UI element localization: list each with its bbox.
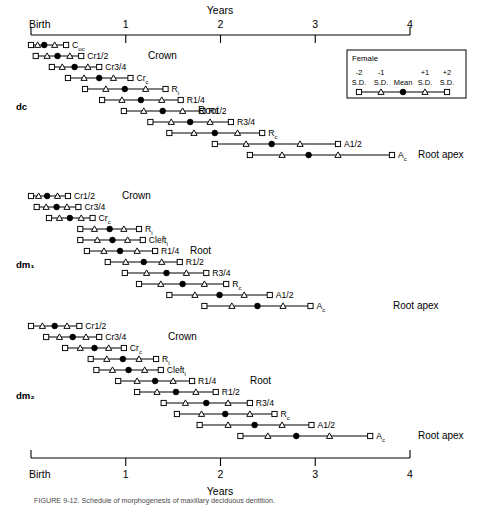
data-row: Crc [63, 343, 143, 354]
data-row: R1/4 [99, 95, 205, 105]
marker-plus2sd [308, 303, 313, 308]
marker-plus2sd [163, 86, 168, 91]
marker-mean [141, 259, 147, 265]
row-label: Ri [145, 224, 153, 235]
marker-plus2sd [140, 237, 145, 242]
data-row: Ri [82, 84, 179, 95]
data-row: R3/4 [122, 268, 230, 278]
marker-minus2sd [34, 204, 39, 209]
marker-mean [72, 64, 78, 70]
marker-minus2sd [202, 303, 207, 308]
marker-minus2sd [161, 400, 166, 405]
data-row: Crc [65, 73, 148, 84]
data-row: Ac [238, 431, 385, 442]
row-label: R1/2 [186, 257, 204, 267]
row-label: R1/4 [187, 95, 205, 105]
marker-plus2sd [189, 378, 194, 383]
row-label: R3/4 [212, 268, 230, 278]
marker-plus2sd [260, 130, 265, 135]
marker-minus2sd [136, 281, 141, 286]
axis-label-birth: Birth [29, 18, 51, 30]
stage-label-crown: Crown [122, 190, 151, 201]
group-label-dm2: dm₂ [16, 390, 35, 401]
row-label: R1/2 [222, 387, 240, 397]
marker-plus2sd [267, 292, 272, 297]
marker-mean [67, 215, 73, 221]
axis-tick-label-1: 1 [123, 18, 129, 30]
marker-plus2sd [153, 248, 158, 253]
data-row: A1/2 [197, 420, 335, 430]
legend-sd-top-0: -2 [356, 68, 363, 77]
data-row: Cr3/4 [44, 332, 127, 342]
data-row: Rc [174, 409, 290, 420]
stage-label-crown: Crown [148, 50, 177, 61]
group-label-dm1: dm₁ [16, 259, 34, 270]
legend-sd-bottom-2: Mean [394, 78, 413, 87]
axis-tick-label-4: 4 [407, 18, 413, 30]
row-label: Crc [136, 73, 148, 84]
stage-label-root: Root [250, 375, 271, 386]
data-row: A1/2 [167, 290, 294, 300]
marker-mean [70, 334, 76, 340]
figure-root: Birth1234YearsBirth1234YearsFemale-2-1+1… [0, 0, 478, 505]
marker-minus2sd [78, 237, 83, 242]
stage-label-root-apex: Root apex [393, 300, 439, 311]
legend-sd-top-3: +2 [443, 68, 451, 77]
marker-minus2sd [78, 226, 83, 231]
marker-plus2sd [63, 42, 68, 47]
marker-minus2sd [247, 152, 252, 157]
marker-mean [138, 97, 144, 103]
row-label: Ac [317, 301, 326, 312]
data-row: R1/4 [84, 246, 179, 256]
marker-minus2sd [94, 367, 99, 372]
stage-label-root: Root [190, 245, 211, 256]
marker-mean [126, 367, 132, 373]
marker-mean [293, 433, 299, 439]
marker-mean [180, 281, 186, 287]
marker-mean [152, 378, 158, 384]
marker-mean [44, 193, 50, 199]
marker-mean [252, 422, 258, 428]
marker-minus2sd [116, 378, 121, 383]
row-label: Ac [398, 150, 407, 161]
marker-plus2sd [77, 323, 82, 328]
marker-mean [41, 42, 47, 48]
marker-mean [187, 119, 193, 125]
stage-label-root-apex: Root apex [418, 430, 464, 441]
marker-minus2sd [105, 259, 110, 264]
marker-plus2sd [389, 152, 394, 157]
row-label: Ri [172, 84, 180, 95]
data-row: Cr1/2 [33, 51, 108, 61]
legend-marker-minus2sd [356, 89, 361, 94]
data-row: R3/4 [161, 398, 274, 408]
stage-label-root: Root [198, 105, 219, 116]
marker-mean [55, 53, 61, 59]
row-label: Clefti [149, 235, 168, 246]
row-label: Cr3/4 [105, 332, 126, 342]
figure-caption: FIGURE 9-12. Schedule of morphogenesis o… [34, 496, 275, 505]
row-label: R1/4 [198, 376, 216, 386]
marker-plus2sd [121, 345, 126, 350]
marker-mean [52, 323, 58, 329]
marker-mean [306, 152, 312, 158]
marker-mean [54, 204, 60, 210]
marker-minus2sd [28, 323, 33, 328]
legend-marker-mean [400, 89, 406, 95]
data-row: Clefti [78, 235, 168, 246]
marker-plus2sd [247, 400, 252, 405]
marker-minus2sd [63, 345, 68, 350]
marker-plus2sd [153, 356, 158, 361]
group-dm1: dm₁Cr1/2Cr3/4CrcRiCleftiR1/4R1/2R3/4RcA1… [16, 190, 439, 312]
marker-mean [120, 356, 126, 362]
row-label: Rc [281, 409, 290, 420]
marker-minus2sd [99, 97, 104, 102]
data-row: Rc [136, 279, 241, 290]
marker-minus2sd [212, 141, 217, 146]
marker-plus2sd [158, 367, 163, 372]
row-label: Ri [162, 354, 170, 365]
data-row: R3/4 [148, 117, 256, 127]
row-label: Rc [232, 279, 241, 290]
x-axis: Birth1234Years [29, 4, 413, 43]
row-label: A1/2 [344, 139, 362, 149]
data-row: Ri [88, 354, 170, 365]
